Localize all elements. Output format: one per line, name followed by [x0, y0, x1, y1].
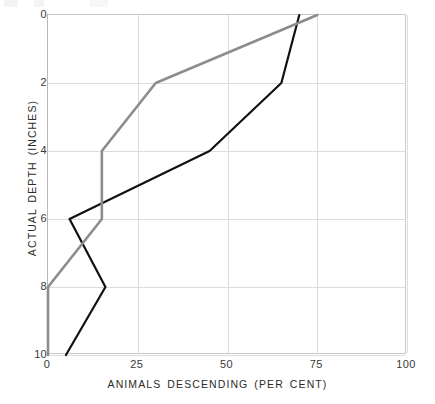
- plot-area: [47, 14, 406, 354]
- x-tick-label: 25: [130, 358, 143, 370]
- x-tick-label: 100: [396, 358, 415, 370]
- gridline-horizontal: [48, 355, 405, 356]
- data-line-series-gray: [48, 15, 317, 355]
- gridline-vertical: [407, 15, 408, 353]
- chart-lines: [48, 15, 407, 355]
- y-tick-label: 0: [23, 8, 47, 20]
- y-tick-label: 10: [23, 348, 47, 360]
- chart-figure: 0255075100 0246810 ANIMALS DESCENDING (P…: [0, 0, 435, 404]
- x-tick-label: 75: [310, 358, 323, 370]
- page-edge-artifact: [4, 0, 144, 7]
- y-axis-label: ACTUAL DEPTH (INCHES): [26, 83, 38, 273]
- x-tick-label: 50: [220, 358, 233, 370]
- x-axis-label: ANIMALS DESCENDING (PER CENT): [0, 378, 435, 390]
- y-tick-label: 8: [23, 280, 47, 292]
